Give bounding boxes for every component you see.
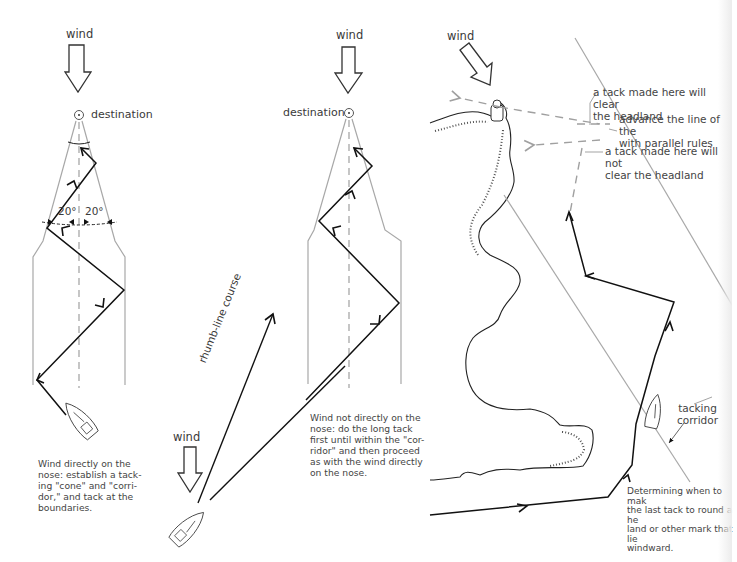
- page-gutter-shadow: [718, 0, 732, 562]
- lighthouse-icon: [491, 100, 503, 121]
- final-approach-course: [430, 212, 674, 515]
- destination-label: destination: [91, 108, 153, 121]
- wind-arrow-icon: [460, 43, 492, 85]
- wind-label: wind: [173, 431, 200, 444]
- tacking-cone-boundary: [82, 121, 125, 385]
- destination-marker-icon: [345, 109, 354, 118]
- tacking-cone-boundary: [308, 119, 346, 384]
- annotation-tack-not-clear: a tack made here will not clear the head…: [605, 145, 732, 181]
- sailboat-icon: [59, 398, 99, 441]
- tacking-corridor-label: tacking corridor: [677, 402, 718, 426]
- corridor-boundary-line: [504, 195, 690, 482]
- angle-label-left: 20°: [58, 205, 77, 218]
- angle-label-right: 20°: [85, 205, 104, 218]
- annotation-advance-line: advance the line of the with parallel ru…: [619, 113, 732, 149]
- wind-label: wind: [336, 29, 363, 42]
- panel-1-wind-direct: [33, 45, 125, 441]
- sailboat-icon: [644, 393, 665, 429]
- wind-label: wind: [447, 30, 474, 43]
- caption-wind-direct: Wind directly on the nose: establish a t…: [38, 458, 168, 513]
- panel-3-wind-off-nose: [306, 47, 401, 400]
- wind-label: wind: [66, 28, 93, 41]
- tacking-course-line: [306, 148, 399, 400]
- caption-wind-off-nose: Wind not directly on the nose: do the lo…: [310, 412, 440, 478]
- tacking-course-line: [37, 148, 124, 415]
- destination-marker-icon: [75, 111, 84, 120]
- destination-label: destination: [283, 106, 345, 119]
- coastline: [430, 102, 593, 480]
- wind-arrow-icon: [335, 47, 362, 93]
- wind-arrow-icon: [65, 45, 91, 92]
- wind-arrow-icon: [178, 447, 202, 492]
- sailboat-icon: [168, 506, 210, 548]
